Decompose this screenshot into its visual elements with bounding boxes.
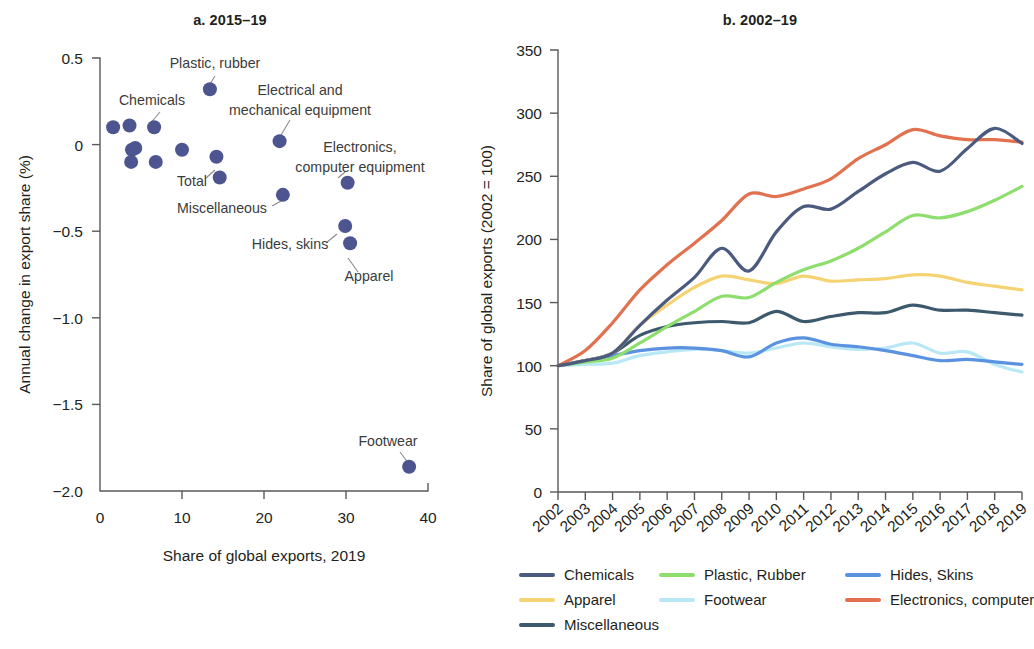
x-tick-label: 2008 bbox=[693, 500, 730, 536]
x-tick-label: 2010 bbox=[747, 499, 784, 535]
annotation-hides-skins: Hides, skins bbox=[252, 236, 328, 252]
legend-row: ApparelFootwearElectronics, computer bbox=[519, 591, 1025, 608]
legend-item-apparel[interactable]: Apparel bbox=[519, 591, 659, 608]
legend-row: ChemicalsPlastic, RubberHides, Skins bbox=[519, 566, 1025, 583]
scatter-point bbox=[209, 150, 223, 164]
x-tick-label: 2019 bbox=[993, 500, 1030, 536]
chart-legend: ChemicalsPlastic, RubberHides, SkinsAppa… bbox=[519, 566, 1025, 641]
scatter-point bbox=[203, 82, 217, 96]
scatter-point bbox=[149, 155, 163, 169]
series-line-miscellaneous bbox=[558, 305, 1022, 366]
x-tick-label: 2004 bbox=[584, 499, 621, 535]
scatter-point bbox=[124, 155, 138, 169]
annotation-footwear: Footwear bbox=[358, 433, 417, 449]
y-tick-label: 350 bbox=[516, 42, 542, 59]
y-tick-label: −0.5 bbox=[52, 223, 83, 240]
annotation-miscellaneous: Miscellaneous bbox=[177, 200, 267, 216]
y-tick-label: 200 bbox=[516, 231, 542, 248]
x-tick-label: 20 bbox=[255, 509, 273, 526]
legend-item-plastic-rubber[interactable]: Plastic, Rubber bbox=[659, 566, 845, 583]
x-tick-label: 2013 bbox=[829, 500, 866, 536]
legend-label: Chemicals bbox=[564, 566, 634, 583]
x-tick-label: 2007 bbox=[665, 500, 702, 536]
y-tick-label: 100 bbox=[516, 358, 542, 375]
legend-swatch-icon bbox=[845, 573, 881, 577]
y-tick-label: 0 bbox=[74, 137, 83, 154]
scatter-point bbox=[128, 141, 142, 155]
annotation-electronics-computer: computer equipment bbox=[295, 159, 424, 175]
x-tick-label: 2005 bbox=[611, 500, 648, 536]
y-tick-label: 50 bbox=[525, 421, 543, 438]
annotation-chemicals: Chemicals bbox=[119, 92, 185, 108]
x-tick-label: 2006 bbox=[638, 500, 675, 536]
panel-a-ylabel: Annual change in export share (%) bbox=[16, 155, 33, 394]
x-tick-label: 2014 bbox=[857, 499, 894, 535]
series-line-footwear bbox=[558, 343, 1022, 372]
x-tick-label: 2009 bbox=[720, 500, 757, 536]
legend-item-footwear[interactable]: Footwear bbox=[659, 591, 845, 608]
annotation-apparel: Apparel bbox=[345, 268, 394, 284]
x-tick-label: 2018 bbox=[966, 500, 1003, 536]
x-tick-label: 30 bbox=[337, 509, 355, 526]
legend-label: Miscellaneous bbox=[564, 616, 659, 633]
scatter-point bbox=[343, 236, 357, 250]
legend-item-miscellaneous[interactable]: Miscellaneous bbox=[519, 616, 659, 633]
y-tick-label: 0.5 bbox=[61, 50, 83, 67]
y-tick-label: 300 bbox=[516, 105, 542, 122]
x-tick-label: 2002 bbox=[529, 500, 566, 536]
legend-item-electronics-computer[interactable]: Electronics, computer bbox=[845, 591, 1025, 608]
x-tick-label: 2003 bbox=[556, 500, 593, 536]
annotation-electrical-mechanical: mechanical equipment bbox=[229, 102, 371, 118]
legend-row: Miscellaneous bbox=[519, 616, 1025, 633]
y-tick-label: −2.0 bbox=[52, 483, 83, 500]
panel-a-scatter: a. 2015–19 0.50−0.5−1.0−1.5−2.0010203040… bbox=[0, 0, 470, 649]
legend-label: Hides, Skins bbox=[890, 566, 973, 583]
x-tick-label: 2016 bbox=[911, 500, 948, 536]
panel-b-ylabel: Share of global exports (2002 = 100) bbox=[478, 145, 495, 397]
y-tick-label: 150 bbox=[516, 295, 542, 312]
scatter-point bbox=[106, 120, 120, 134]
y-tick-label: 0 bbox=[533, 484, 542, 501]
x-tick-label: 2015 bbox=[884, 500, 921, 536]
annotation-electronics-computer: Electronics, bbox=[323, 139, 396, 155]
legend-swatch-icon bbox=[845, 598, 881, 602]
legend-item-chemicals[interactable]: Chemicals bbox=[519, 566, 659, 583]
legend-label: Electronics, computer bbox=[890, 591, 1034, 608]
scatter-point bbox=[273, 134, 287, 148]
legend-swatch-icon bbox=[519, 573, 555, 577]
scatter-point bbox=[213, 171, 227, 185]
scatter-point bbox=[175, 143, 189, 157]
x-tick-label: 2011 bbox=[776, 500, 812, 535]
legend-swatch-icon bbox=[519, 598, 555, 602]
scatter-point bbox=[402, 460, 416, 474]
panel-b-plot: 0501001502002503003502002200320042005200… bbox=[470, 0, 1025, 560]
x-tick-label: 40 bbox=[419, 509, 437, 526]
panel-a-plot: 0.50−0.5−1.0−1.5−2.0010203040Share of gl… bbox=[0, 0, 470, 620]
legend-label: Apparel bbox=[564, 591, 616, 608]
scatter-point bbox=[276, 188, 290, 202]
y-tick-label: −1.5 bbox=[52, 396, 83, 413]
y-tick-label: 250 bbox=[516, 168, 542, 185]
annotation-electrical-mechanical-leader bbox=[281, 120, 290, 135]
x-tick-label: 2012 bbox=[802, 500, 839, 536]
legend-swatch-icon bbox=[659, 598, 695, 602]
x-tick-label: 0 bbox=[96, 509, 105, 526]
annotation-total: Total bbox=[177, 173, 207, 189]
series-line-chemicals bbox=[558, 128, 1022, 365]
annotation-electrical-mechanical: Electrical and bbox=[257, 82, 342, 98]
scatter-point bbox=[147, 120, 161, 134]
legend-item-hides-skins[interactable]: Hides, Skins bbox=[845, 566, 1025, 583]
legend-label: Footwear bbox=[704, 591, 767, 608]
scatter-point bbox=[341, 176, 355, 190]
legend-swatch-icon bbox=[659, 573, 695, 577]
legend-label: Plastic, Rubber bbox=[704, 566, 806, 583]
legend-swatch-icon bbox=[519, 623, 555, 627]
panel-b-axes bbox=[550, 50, 1022, 492]
y-tick-label: −1.0 bbox=[52, 310, 83, 327]
annotation-plastic-rubber: Plastic, rubber bbox=[170, 55, 261, 71]
scatter-point bbox=[123, 119, 137, 133]
scatter-point bbox=[338, 219, 352, 233]
x-tick-label: 10 bbox=[173, 509, 191, 526]
panel-a-xlabel: Share of global exports, 2019 bbox=[163, 547, 366, 564]
